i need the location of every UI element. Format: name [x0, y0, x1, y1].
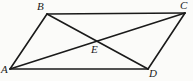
geometry-figure: A B C D E — [0, 0, 193, 81]
edge-cd-line — [148, 13, 185, 69]
vertex-label-d: D — [149, 68, 157, 79]
edge-bc-line — [47, 13, 185, 14]
vertex-label-b: B — [37, 1, 44, 12]
vertex-label-a: A — [1, 64, 8, 75]
parallelogram-diagram — [0, 0, 193, 81]
edge-ab-line — [10, 14, 47, 69]
vertex-label-e: E — [91, 44, 98, 55]
edges-group — [10, 13, 185, 69]
vertex-label-c: C — [180, 0, 187, 11]
diagonal-bd-line — [47, 14, 148, 69]
